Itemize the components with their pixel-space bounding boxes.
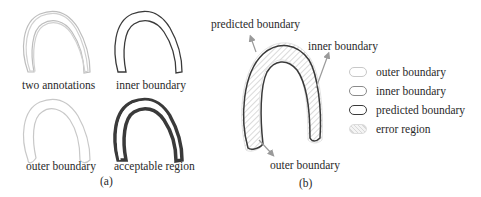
prediction-shape	[242, 43, 323, 151]
legend-item-inner-boundary: inner boundary	[349, 85, 446, 97]
caption-b: (b)	[299, 178, 312, 190]
predicted-boundary-swatch-icon	[349, 105, 367, 115]
inner-boundary-swatch-icon	[349, 86, 367, 96]
label-two-annotations: two annotations	[22, 80, 95, 92]
callout-inner-boundary: inner boundary	[308, 41, 378, 53]
legend-item-outer-boundary: outer boundary	[349, 66, 446, 78]
two-annotations-shape	[24, 11, 90, 73]
caption-a: (a)	[100, 176, 113, 188]
label-acceptable-region: acceptable region	[114, 161, 195, 173]
callout-predicted-boundary: predicted boundary	[211, 19, 300, 31]
legend-label: error region	[376, 123, 431, 135]
legend-item-error-region: error region	[349, 123, 431, 135]
legend-label: outer boundary	[376, 66, 446, 78]
legend-label: inner boundary	[376, 85, 446, 97]
error-region-swatch-icon	[349, 124, 367, 134]
outer-boundary-shape	[24, 99, 90, 162]
label-outer-boundary-a: outer boundary	[26, 161, 96, 173]
legend-label: predicted boundary	[376, 104, 465, 116]
inner-arrow	[316, 55, 328, 88]
inner-boundary-shape	[115, 11, 182, 73]
callout-outer-boundary: outer boundary	[270, 160, 340, 172]
predicted-arrow	[251, 38, 256, 52]
outer-boundary-swatch-icon	[349, 67, 367, 77]
label-inner-boundary-a: inner boundary	[116, 80, 186, 92]
legend-item-predicted-boundary: predicted boundary	[349, 104, 465, 116]
acceptable-region-shape	[115, 99, 182, 161]
